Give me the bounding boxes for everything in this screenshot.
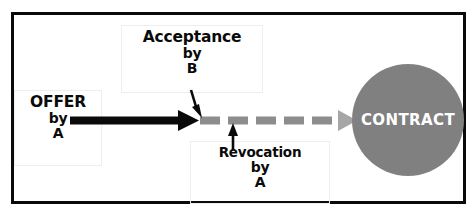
offer-line-3: A [15, 126, 101, 141]
acceptance-line-2: by [122, 46, 262, 61]
revocation-box: Revocation by A [190, 141, 330, 204]
revocation-line-3: A [191, 175, 329, 190]
diagram-canvas: OFFER by A Acceptance by B Revocation by… [0, 0, 476, 220]
acceptance-line-1: Acceptance [122, 29, 262, 46]
contract-circle: CONTRACT [352, 64, 464, 176]
offer-line-1: OFFER [15, 94, 101, 111]
offer-box: OFFER by A [14, 90, 102, 166]
revocation-line-2: by [191, 160, 329, 175]
revocation-line-1: Revocation [191, 145, 329, 160]
acceptance-line-3: B [122, 61, 262, 76]
offer-line-2: by [15, 111, 101, 126]
contract-label: CONTRACT [361, 111, 455, 129]
acceptance-box: Acceptance by B [121, 25, 263, 93]
